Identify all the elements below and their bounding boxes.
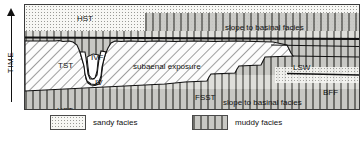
lsw-top-surface bbox=[293, 56, 359, 57]
diagram-label-hst-upper: HST bbox=[77, 14, 93, 23]
legend-item-muddy: muddy facies bbox=[192, 115, 282, 130]
cc-surface bbox=[287, 74, 359, 76]
diagram-label-hst-lower: HST bbox=[57, 106, 73, 110]
diagram-label-fsst: FSST bbox=[195, 93, 215, 102]
mfs-surface bbox=[25, 38, 359, 40]
diagram-label-lsw: LSW bbox=[293, 63, 310, 72]
legend-swatch-muddy bbox=[192, 115, 228, 130]
diagram-label-subaerial: subaenal exposure bbox=[133, 62, 201, 71]
diagram-label-iv: IV bbox=[95, 78, 103, 87]
diagram-label-ivf: IVF bbox=[91, 53, 103, 62]
time-axis: TIME bbox=[0, 6, 24, 110]
time-axis-label: TIME bbox=[6, 35, 15, 91]
diagram-label-slope-upper: slope to basinal facies bbox=[225, 23, 304, 32]
subaerial-exposure-body bbox=[25, 5, 359, 109]
legend-label-sandy: sandy facies bbox=[93, 118, 137, 127]
diagram-label-bff: BFF bbox=[323, 88, 338, 97]
diagram-panel: HSTslope to basinal faciesCSmfstsTSTIVFI… bbox=[24, 4, 360, 110]
legend-swatch-sandy bbox=[50, 115, 86, 130]
legend-label-muddy: muddy facies bbox=[235, 118, 282, 127]
legend: sandy faciesmuddy facies bbox=[24, 113, 358, 139]
diagram-label-tst: TST bbox=[58, 61, 73, 70]
legend-item-sandy: sandy facies bbox=[50, 115, 137, 130]
diagram-label-slope-lower: slope to basinal facies bbox=[223, 98, 302, 107]
wheeler-diagram-figure: TIME bbox=[0, 0, 360, 142]
